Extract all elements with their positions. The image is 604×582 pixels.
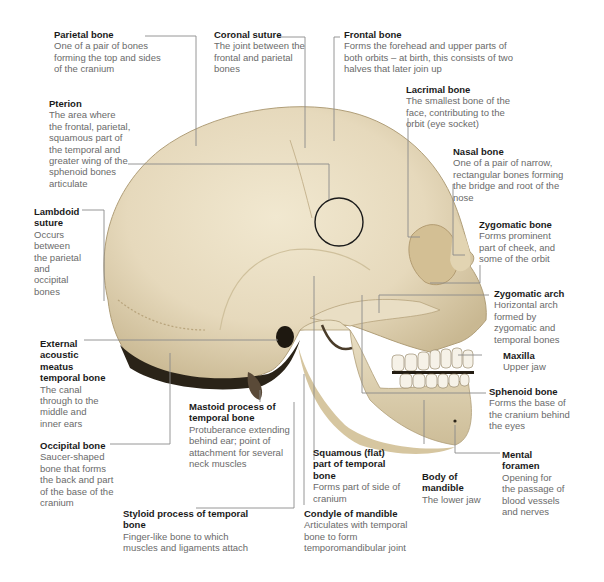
label-title: Squamous (flat) part of temporal bone: [313, 447, 405, 481]
bite-gap: [392, 371, 474, 374]
label-title: Parietal bone: [54, 29, 166, 40]
label-desc: The canal through to the middle and inne…: [40, 384, 108, 430]
label-title: Pterion: [49, 98, 131, 109]
label-title: Occipital bone: [40, 440, 118, 451]
label-desc: The joint between the frontal and pariet…: [214, 40, 306, 74]
label-title: Zygomatic bone: [479, 219, 557, 230]
label-external-acoustic-meatus: External acoustic meatus temporal bone T…: [40, 338, 108, 429]
label-desc: The smallest bone of the face, contribut…: [406, 95, 511, 129]
upper-teeth: [392, 348, 473, 371]
label-title: Frontal bone: [344, 29, 514, 40]
label-mastoid-process: Mastoid process of temporal bone Protube…: [189, 401, 294, 469]
label-desc: Upper jaw: [503, 361, 563, 372]
label-pterion: Pterion The area where the frontal, pari…: [49, 98, 131, 189]
label-parietal-bone: Parietal bone One of a pair of bones for…: [54, 29, 166, 75]
label-desc: Forms the base of the cranium behind the…: [489, 397, 571, 431]
label-title: Maxilla: [503, 350, 563, 361]
label-title: Condyle of mandible: [304, 508, 419, 519]
label-zygomatic-bone: Zygomatic bone Forms prominent part of c…: [479, 219, 557, 265]
label-lambdoid-suture: Lambdoid suture Occurs between the parie…: [34, 206, 84, 297]
label-title: Lacrimal bone: [406, 84, 511, 95]
label-nasal-bone: Nasal bone One of a pair of narrow, rect…: [453, 146, 578, 203]
label-desc: Opening for the passage of blood vessels…: [502, 472, 566, 518]
label-styloid-process: Styloid process of temporal bone Finger-…: [123, 508, 253, 554]
label-desc: Articulates with temporal bone to form t…: [304, 519, 419, 553]
label-desc: Finger-like bone to which muscles and li…: [123, 531, 253, 554]
label-desc: Occurs between the parietal and occipita…: [34, 229, 84, 297]
label-title: Zygomatic arch: [494, 288, 574, 299]
label-title: Lambdoid suture: [34, 206, 84, 229]
label-desc: One of a pair of bones forming the top a…: [54, 40, 166, 74]
label-desc: Forms the forehead and upper parts of bo…: [344, 40, 514, 74]
mental-foramen-dot: [453, 419, 456, 422]
label-condyle-of-mandible: Condyle of mandible Articulates with tem…: [304, 508, 419, 554]
label-desc: Protuberance extending behind ear; point…: [189, 424, 294, 470]
label-squamous-part: Squamous (flat) part of temporal bone Fo…: [313, 447, 405, 504]
label-desc: Forms prominent part of cheek, and some …: [479, 230, 557, 264]
label-desc: Saucer-shaped bone that forms the back a…: [40, 451, 118, 508]
label-desc: One of a pair of narrow, rectangular bon…: [453, 157, 578, 203]
label-mental-foramen: Mental foramen Opening for the passage o…: [502, 449, 566, 517]
label-desc: The lower jaw: [422, 494, 482, 505]
label-title: External acoustic meatus temporal bone: [40, 338, 108, 384]
label-desc: Horizontal arch formed by zygomatic and …: [494, 299, 574, 345]
label-lacrimal-bone: Lacrimal bone The smallest bone of the f…: [406, 84, 511, 130]
label-title: Nasal bone: [453, 146, 578, 157]
label-coronal-suture: Coronal suture The joint between the fro…: [214, 29, 306, 75]
label-title: Mastoid process of temporal bone: [189, 401, 294, 424]
label-desc: Forms part of side of cranium: [313, 481, 405, 504]
label-title: Coronal suture: [214, 29, 306, 40]
label-zygomatic-arch: Zygomatic arch Horizontal arch formed by…: [494, 288, 574, 345]
label-frontal-bone: Frontal bone Forms the forehead and uppe…: [344, 29, 514, 75]
label-title: Body of mandible: [422, 471, 482, 494]
label-body-of-mandible: Body of mandible The lower jaw: [422, 471, 482, 505]
label-title: Sphenoid bone: [489, 386, 571, 397]
label-occipital-bone: Occipital bone Saucer-shaped bone that f…: [40, 440, 118, 508]
label-title: Mental foramen: [502, 449, 566, 472]
ear-canal: [276, 326, 294, 348]
label-sphenoid-bone: Sphenoid bone Forms the base of the cran…: [489, 386, 571, 432]
label-title: Styloid process of temporal bone: [123, 508, 253, 531]
label-maxilla: Maxilla Upper jaw: [503, 350, 563, 373]
label-desc: The area where the frontal, parietal, sq…: [49, 109, 131, 189]
